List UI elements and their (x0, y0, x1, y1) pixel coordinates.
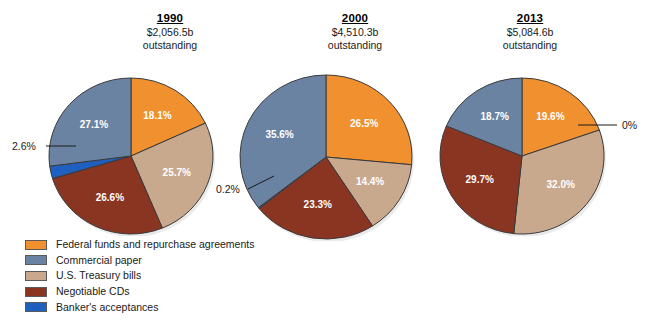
pie-header-1990: 1990 $2,056.5b outstanding (80, 12, 260, 52)
pie-header-2000: 2000 $4,510.3b outstanding (265, 12, 445, 52)
legend-commercial-paper: Commercial paper (25, 253, 254, 269)
pie-slice-label: 25.7% (163, 167, 191, 178)
pie-year-1990: 1990 (80, 12, 260, 25)
pie-chart-2013: 19.6%32.0%29.7%18.7% (438, 76, 606, 236)
legend-label-bankers-acceptances: Banker's acceptances (56, 302, 158, 313)
legend-swatch-bankers-acceptances (25, 302, 47, 312)
legend-swatch-federal-funds (25, 240, 47, 250)
pie-slice-label: 29.7% (466, 174, 494, 185)
pie-header-2013: 2013 $5,084.6b outstanding (440, 12, 620, 52)
pie-slice-label: 35.6% (265, 129, 293, 140)
pie-chart-1990: 18.1%25.7%26.6%27.1% (47, 76, 215, 236)
pie-slice-label: 14.4% (356, 176, 384, 187)
pie-svg-1990: 18.1%25.7%26.6%27.1% (47, 76, 215, 236)
pie-slice-label: 18.7% (481, 111, 509, 122)
pie-amount-2000: $4,510.3b (265, 26, 445, 39)
pie-slice-label: 32.0% (547, 179, 575, 190)
pie-slice-label: 19.6% (536, 111, 564, 122)
pie-year-2000: 2000 (265, 12, 445, 25)
legend-label-treasury-bills: U.S. Treasury bills (56, 270, 141, 281)
pie-svg-2013: 19.6%32.0%29.7%18.7% (438, 76, 606, 236)
legend-swatch-treasury-bills (25, 271, 47, 281)
pie-slice-label: 23.3% (304, 199, 332, 210)
pie-amount-2013: $5,084.6b (440, 26, 620, 39)
legend-label-federal-funds: Federal funds and repurchase agreements (56, 239, 254, 250)
callout-2000-bankers: 0.2% (216, 183, 240, 195)
chart-legend: Federal funds and repurchase agreements … (25, 237, 254, 315)
callout-2013-bankers: 0% (622, 119, 637, 131)
legend-swatch-commercial-paper (25, 255, 47, 265)
legend-label-negotiable-cds: Negotiable CDs (56, 286, 130, 297)
legend-bankers-acceptances: Banker's acceptances (25, 299, 254, 315)
pie-slice-label: 26.6% (96, 192, 124, 203)
legend-swatch-negotiable-cds (25, 287, 47, 297)
pie-outstanding-2000: outstanding (265, 39, 445, 52)
pie-slice-label: 26.5% (350, 118, 378, 129)
legend-negotiable-cds: Negotiable CDs (25, 284, 254, 300)
legend-federal-funds: Federal funds and repurchase agreements (25, 237, 254, 253)
pie-outstanding-2013: outstanding (440, 39, 620, 52)
pie-svg-2000: 26.5%14.4%23.3%35.6% (238, 73, 414, 241)
pie-slice-label: 18.1% (143, 110, 171, 121)
pie-slice-label: 27.1% (80, 119, 108, 130)
callout-1990-bankers: 2.6% (12, 140, 36, 152)
legend-label-commercial-paper: Commercial paper (56, 255, 142, 266)
pie-chart-2000: 26.5%14.4%23.3%35.6% (238, 73, 414, 241)
pie-year-2013: 2013 (440, 12, 620, 25)
legend-treasury-bills: U.S. Treasury bills (25, 268, 254, 284)
pie-outstanding-1990: outstanding (80, 39, 260, 52)
pie-amount-1990: $2,056.5b (80, 26, 260, 39)
chart-canvas: 1990 $2,056.5b outstanding 2000 $4,510.3… (0, 0, 664, 329)
